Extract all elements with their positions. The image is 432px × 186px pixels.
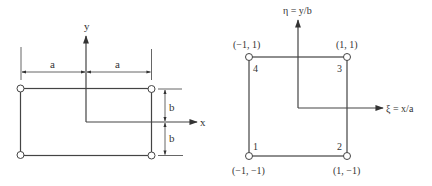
natural-element-diagram: η = y/b ξ = x/a 1 2 3 4 (−1, −1) (1, −1)… xyxy=(232,5,414,177)
node-top-right xyxy=(148,86,155,93)
diagram-canvas: y x a a b b η = y/b ξ = x/a xyxy=(0,0,432,186)
node-2-number: 2 xyxy=(337,141,342,152)
node-4-coord: (−1, 1) xyxy=(233,39,260,51)
node-3 xyxy=(344,54,351,61)
node-2-coord: (1, −1) xyxy=(333,165,360,177)
physical-element-diagram: y x a a b b xyxy=(17,20,206,159)
eta-axis-label: η = y/b xyxy=(283,5,312,16)
node-1-number: 1 xyxy=(253,141,258,152)
node-top-left xyxy=(17,85,24,92)
node-4-number: 4 xyxy=(253,63,258,74)
node-3-number: 3 xyxy=(337,63,342,74)
dim-a-right-label: a xyxy=(115,58,120,70)
node-3-coord: (1, 1) xyxy=(336,39,358,51)
dim-b-bottom-label: b xyxy=(169,132,175,144)
node-1 xyxy=(246,153,253,160)
dim-b-top-label: b xyxy=(169,101,175,113)
x-axis-label: x xyxy=(200,116,206,128)
dim-a-left-label: a xyxy=(50,58,55,70)
node-2 xyxy=(344,153,351,160)
node-bottom-right xyxy=(148,152,155,159)
y-axis-label: y xyxy=(84,20,90,32)
node-1-coord: (−1, −1) xyxy=(232,165,265,177)
node-bottom-left xyxy=(17,152,24,159)
xi-axis-label: ξ = x/a xyxy=(386,103,414,115)
node-4 xyxy=(246,54,253,61)
